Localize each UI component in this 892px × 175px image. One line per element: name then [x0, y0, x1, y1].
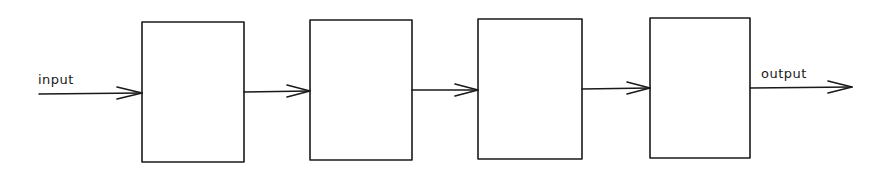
- block-diagram: [0, 0, 892, 175]
- arrow-block2-to-block3: [412, 84, 478, 96]
- arrow-block3-to-block4: [582, 82, 650, 94]
- input-arrow: [39, 87, 142, 99]
- block-1: [142, 22, 244, 162]
- input-label: input: [38, 73, 74, 86]
- block-3: [478, 19, 582, 159]
- block-2: [310, 20, 412, 160]
- block-4: [650, 18, 750, 158]
- output-label: output: [761, 67, 807, 80]
- output-arrow: [750, 81, 852, 93]
- arrow-block1-to-block2: [244, 85, 310, 97]
